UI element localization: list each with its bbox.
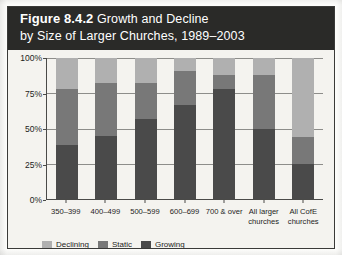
x-axis-label-text: 500–599: [125, 207, 165, 217]
x-axis-label-text: 350–399: [46, 207, 86, 217]
bar-segment-growing[interactable]: [292, 164, 314, 199]
bar-segment-growing[interactable]: [213, 89, 235, 199]
figure-title-part-2: by Size of Larger Churches, 1989–2003: [20, 29, 245, 43]
stacked-bar[interactable]: [135, 58, 157, 199]
bar-segment-static[interactable]: [213, 75, 235, 89]
bar-segment-static[interactable]: [253, 75, 275, 129]
figure-title-part-1: Growth and Decline: [97, 12, 209, 26]
legend-label-static: Static: [112, 240, 132, 249]
legend-label-growing: Growing: [155, 240, 185, 249]
x-axis-tick: [65, 200, 66, 203]
x-axis-label: All larger churches: [244, 200, 284, 240]
stacked-bar[interactable]: [95, 58, 117, 199]
bar-segment-static[interactable]: [95, 83, 117, 135]
x-axis-tick: [184, 200, 185, 203]
plot-area: [46, 58, 323, 200]
legend-item-static[interactable]: Static: [98, 240, 132, 249]
x-axis-label: All CofE churches: [283, 200, 323, 240]
x-axis-label: 400–499: [86, 200, 126, 240]
legend-swatch-static: [98, 241, 108, 249]
figure-card: Figure 8.4.2 Growth and Decline by Size …: [7, 6, 335, 249]
x-axis-label: 350–399: [46, 200, 86, 240]
x-axis-label-text: All larger churches: [244, 207, 284, 226]
bar-slot: [86, 58, 125, 199]
bar-slot: [244, 58, 283, 199]
stacked-bar[interactable]: [174, 58, 196, 199]
x-axis-label-text: 600–699: [165, 207, 205, 217]
bar-slot: [126, 58, 165, 199]
y-axis-label-100: 100%: [20, 53, 42, 63]
bar-slot: [47, 58, 86, 199]
y-axis-tick-75: [43, 94, 46, 95]
bar-segment-declining[interactable]: [213, 58, 235, 75]
bar-segment-static[interactable]: [135, 83, 157, 118]
x-axis-labels: 350–399400–499500–599600–699700 & overAl…: [46, 200, 323, 240]
x-axis-tick: [303, 200, 304, 203]
bar-segment-growing[interactable]: [56, 145, 78, 199]
y-axis-tick-50: [43, 129, 46, 130]
bar-segment-declining[interactable]: [95, 58, 117, 83]
bar-segment-growing[interactable]: [135, 119, 157, 199]
stacked-bar[interactable]: [213, 58, 235, 199]
y-axis-tick-100: [43, 58, 46, 59]
bar-segment-declining[interactable]: [292, 58, 314, 137]
chart-legend: DecliningStaticGrowing: [42, 240, 185, 249]
legend-swatch-growing: [141, 241, 151, 249]
x-axis-label: 700 & over: [204, 200, 244, 240]
bar-group: [47, 58, 323, 199]
x-axis-tick: [144, 200, 145, 203]
figure-number: Figure 8.4.2: [20, 11, 93, 26]
figure-root: Figure 8.4.2 Growth and Decline by Size …: [0, 0, 342, 255]
plot-wrapper: 0%25%50%75%100%: [46, 58, 323, 200]
y-axis-label-75: 75%: [25, 89, 42, 99]
y-axis-label-0: 0%: [30, 195, 42, 205]
legend-label-declining: Declining: [56, 240, 89, 249]
x-axis-tick: [263, 200, 264, 203]
stacked-bar[interactable]: [253, 58, 275, 199]
x-axis-label: 600–699: [165, 200, 205, 240]
bar-segment-declining[interactable]: [253, 58, 275, 75]
y-axis-label-25: 25%: [25, 160, 42, 170]
y-axis-label-50: 50%: [25, 124, 42, 134]
x-axis-tick: [105, 200, 106, 203]
figure-title-line-2: by Size of Larger Churches, 1989–2003: [20, 28, 324, 45]
figure-title-line-1: Figure 8.4.2 Growth and Decline: [20, 11, 324, 28]
stacked-bar[interactable]: [292, 58, 314, 199]
bar-segment-growing[interactable]: [253, 129, 275, 200]
bar-segment-declining[interactable]: [135, 58, 157, 83]
x-axis-label-text: 400–499: [86, 207, 126, 217]
y-axis-tick-25: [43, 165, 46, 166]
x-axis-label-text: All CofE churches: [283, 207, 323, 226]
bar-slot: [284, 58, 323, 199]
bar-segment-growing[interactable]: [95, 136, 117, 199]
legend-item-declining[interactable]: Declining: [42, 240, 89, 249]
bar-segment-declining[interactable]: [56, 58, 78, 89]
figure-title-band: Figure 8.4.2 Growth and Decline by Size …: [8, 7, 334, 50]
bar-segment-static[interactable]: [174, 71, 196, 105]
x-axis-label: 500–599: [125, 200, 165, 240]
bar-slot: [205, 58, 244, 199]
x-axis-label-text: 700 & over: [204, 207, 244, 217]
legend-swatch-declining: [42, 241, 52, 249]
stacked-bar[interactable]: [56, 58, 78, 199]
legend-item-growing[interactable]: Growing: [141, 240, 185, 249]
bar-slot: [165, 58, 204, 199]
bar-segment-declining[interactable]: [174, 58, 196, 71]
bar-segment-growing[interactable]: [174, 105, 196, 199]
x-axis-tick: [224, 200, 225, 203]
bar-segment-static[interactable]: [292, 137, 314, 164]
bar-segment-static[interactable]: [56, 89, 78, 145]
chart-body: 0%25%50%75%100% 350–399400–499500–599600…: [8, 50, 334, 248]
